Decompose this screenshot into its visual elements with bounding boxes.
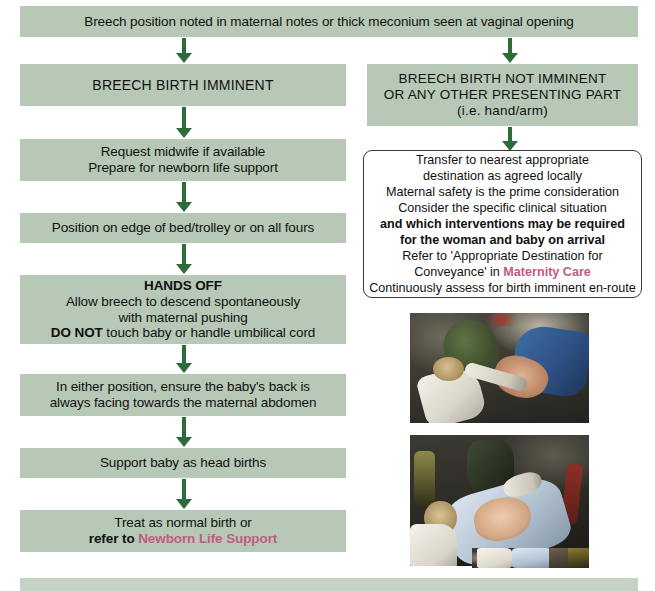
advisory-line-4: Consider the specific clinical situation <box>398 200 607 216</box>
left-step-5-line-1: Support baby as head births <box>100 455 266 471</box>
left-header-line-1: BREECH BIRTH IMMINENT <box>92 77 273 94</box>
right-header-line-2: OR ANY OTHER PRESENTING PART <box>384 87 621 103</box>
left-step-3-box: HANDS OFF Allow breech to descend sponta… <box>20 275 346 344</box>
advisory-line-5: and which interventions may be required <box>380 216 625 232</box>
right-header-box: BREECH BIRTH NOT IMMINENT OR ANY OTHER P… <box>367 64 638 126</box>
left-step-1-box: Request midwife if available Prepare for… <box>20 139 346 181</box>
do-not-emphasis: DO NOT <box>51 325 103 340</box>
left-step-4-box: In either position, ensure the baby's ba… <box>20 374 346 416</box>
arrow-start-to-left-header <box>174 38 194 63</box>
advisory-line-8: Conveyance' in Maternity Care <box>414 264 591 280</box>
photo-1-shape-attendant-head <box>433 357 463 381</box>
advisory-line-6: for the woman and baby on arrival <box>400 232 605 248</box>
left-step-1-line-1: Request midwife if available <box>101 144 266 160</box>
left-step-1-line-2: Prepare for newborn life support <box>88 160 278 176</box>
left-step-2-line-1: Position on edge of bed/trolley or on al… <box>52 220 314 236</box>
photo-ambulance-breech-birth <box>410 313 589 423</box>
do-not-rest: touch baby or handle umbilical cord <box>103 325 316 340</box>
left-step-5-box: Support baby as head births <box>20 448 346 478</box>
footer-box <box>20 578 638 591</box>
advisory-line-3: Maternal safety is the prime considerati… <box>386 184 619 200</box>
photo-2-shape-white-coat <box>410 524 457 566</box>
left-step-3-line-1: HANDS OFF <box>144 278 222 294</box>
left-step-4-line-2: always facing towards the maternal abdom… <box>50 395 317 411</box>
arrow-right-1 <box>500 127 520 151</box>
arrow-left-4 <box>174 345 194 373</box>
photo-3-shape-centre <box>512 548 552 568</box>
left-step-6-line-2: refer to Newborn Life Support <box>89 531 277 547</box>
left-step-3-line-4: DO NOT touch baby or handle umbilical co… <box>51 325 315 341</box>
right-header-line-1: BREECH BIRTH NOT IMMINENT <box>399 71 607 87</box>
left-step-3-line-3: with maternal pushing <box>118 310 247 326</box>
photo-1-shape-red-top <box>482 313 521 326</box>
left-step-6-box: Treat as normal birth or refer to Newbor… <box>20 510 346 552</box>
maternity-care-link[interactable]: Maternity Care <box>503 265 591 279</box>
conveyance-prefix: Conveyance' in <box>414 265 503 279</box>
right-header-line-3: (i.e. hand/arm) <box>457 103 548 119</box>
start-box-line-1: Breech position noted in maternal notes … <box>84 14 573 30</box>
left-step-3-line-2: Allow breech to descend spontaneously <box>66 294 300 310</box>
arrow-left-1 <box>174 107 194 138</box>
advisory-line-7: Refer to 'Appropriate Destination for <box>402 248 603 264</box>
left-step-6-line-1: Treat as normal birth or <box>114 515 251 531</box>
arrow-left-2 <box>174 182 194 212</box>
arrow-start-to-right-header <box>500 38 520 63</box>
arrow-left-5 <box>174 417 194 447</box>
photo-3-shape-far-right <box>568 548 589 568</box>
advisory-line-2: destination as agreed locally <box>423 168 582 184</box>
photo-3-shape-left <box>477 548 512 568</box>
start-box: Breech position noted in maternal notes … <box>20 6 638 37</box>
advisory-line-1: Transfer to nearest appropriate <box>416 152 589 168</box>
refer-to-emphasis: refer to <box>89 531 135 546</box>
newborn-life-support-link[interactable]: Newborn Life Support <box>138 531 277 546</box>
arrow-left-6 <box>174 479 194 509</box>
arrow-left-3 <box>174 244 194 274</box>
advisory-line-9: Continuously assess for birth imminent e… <box>369 280 636 296</box>
advisory-panel: Transfer to nearest appropriate destinat… <box>363 150 642 298</box>
left-header-box: BREECH BIRTH IMMINENT <box>20 64 346 106</box>
photo-3-shape-right <box>549 548 568 568</box>
photo-2-shape-equipment <box>414 451 435 509</box>
photo-clipped-bottom <box>472 548 589 568</box>
left-step-2-box: Position on edge of bed/trolley or on al… <box>20 213 346 243</box>
photo-newborn-on-stretcher <box>410 435 589 566</box>
left-step-4-line-1: In either position, ensure the baby's ba… <box>56 379 310 395</box>
